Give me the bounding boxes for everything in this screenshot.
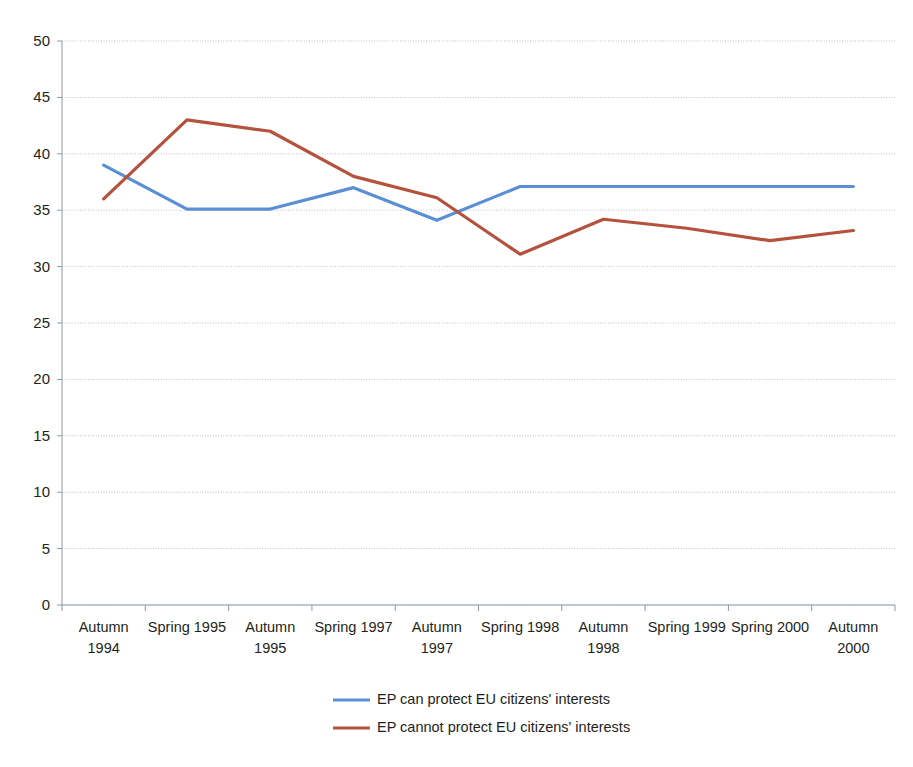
chart-canvas: 05101520253035404550 Autumn1994Spring 19… bbox=[0, 0, 913, 767]
x-tick-label: Autumn1998 bbox=[578, 619, 628, 656]
x-tick-label: Autumn1994 bbox=[79, 619, 129, 656]
y-tick-label: 10 bbox=[33, 483, 50, 500]
x-tick-label: Autumn1997 bbox=[412, 619, 462, 656]
y-tick-label: 25 bbox=[33, 314, 50, 331]
y-axis-group bbox=[57, 41, 62, 605]
y-tick-label: 30 bbox=[33, 258, 50, 275]
x-tick-label: Spring 1998 bbox=[481, 619, 559, 635]
y-tick-label: 35 bbox=[33, 201, 50, 218]
x-axis-group bbox=[62, 605, 895, 611]
x-tick-label: Autumn1995 bbox=[245, 619, 295, 656]
y-tick-label: 45 bbox=[33, 88, 50, 105]
x-tick-label: Spring 2000 bbox=[731, 619, 809, 635]
legend-group: EP can protect EU citizens' interestsEP … bbox=[333, 691, 630, 735]
x-tick-label: Autumn2000 bbox=[828, 619, 878, 656]
series-line-1 bbox=[104, 165, 854, 220]
line-chart: 05101520253035404550 Autumn1994Spring 19… bbox=[0, 0, 913, 767]
gridlines-group bbox=[62, 41, 895, 605]
y-tick-label: 15 bbox=[33, 427, 50, 444]
legend-label-2: EP cannot protect EU citizens' interests bbox=[377, 719, 630, 735]
y-tick-label: 20 bbox=[33, 370, 50, 387]
series-group bbox=[104, 120, 854, 254]
x-tick-label: Spring 1999 bbox=[648, 619, 726, 635]
y-tick-label: 50 bbox=[33, 32, 50, 49]
x-tick-label: Spring 1997 bbox=[314, 619, 392, 635]
y-tick-label: 40 bbox=[33, 145, 50, 162]
y-tick-labels-group: 05101520253035404550 bbox=[33, 32, 50, 613]
legend-label-1: EP can protect EU citizens' interests bbox=[377, 691, 610, 707]
x-tick-label: Spring 1995 bbox=[148, 619, 226, 635]
y-tick-label: 5 bbox=[42, 540, 50, 557]
y-tick-label: 0 bbox=[42, 596, 50, 613]
x-tick-labels-group: Autumn1994Spring 1995Autumn1995Spring 19… bbox=[79, 619, 879, 656]
